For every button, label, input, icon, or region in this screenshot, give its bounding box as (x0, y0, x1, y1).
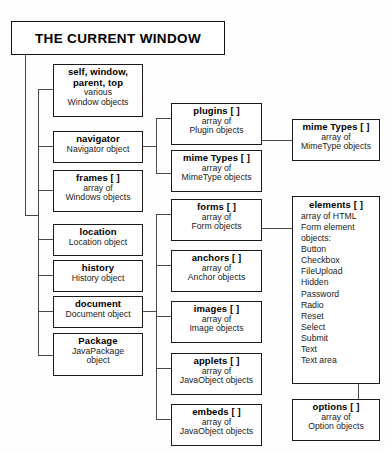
connector-plugins-to-mimetypes (262, 140, 292, 141)
element-item-button: Button (301, 244, 379, 255)
node-sub2: Anchor objects (172, 273, 261, 283)
node-sub2: Option objects (293, 422, 379, 432)
javascript-object-hierarchy-diagram: THE CURRENT WINDOW self, window, parent,… (0, 0, 390, 453)
elements-sub3: objects: (301, 233, 379, 244)
node-document[interactable]: document Document object (53, 296, 143, 328)
connector-title-drop (25, 55, 26, 216)
elements-detail-list: array of HTML Form element objects: Butt… (293, 211, 379, 367)
node-sub2: MimeType objects (172, 173, 261, 183)
connector-stub-forms (156, 214, 172, 215)
elements-sub1: array of HTML (301, 211, 379, 222)
node-navigator[interactable]: navigator Navigator object (53, 131, 143, 163)
node-mime-types-middle[interactable]: mime Types [ ] array of MimeType objects (171, 150, 262, 192)
node-sub2: Plugin objects (172, 126, 261, 136)
connector-stub-document (38, 311, 53, 312)
element-item-radio: Radio (301, 300, 379, 311)
element-item-submit: Submit (301, 333, 379, 344)
node-package[interactable]: Package JavaPackage object (53, 333, 143, 376)
element-item-fileupload: FileUpload (301, 266, 379, 277)
connector-stub-location (38, 239, 53, 240)
node-sub1: Document object (54, 310, 142, 320)
connector-stub-self (38, 89, 53, 90)
node-sub1: History object (54, 274, 142, 284)
connector-stub-anchors (156, 265, 172, 266)
node-embeds[interactable]: embeds [ ] array of JavaObject objects (171, 404, 262, 446)
connector-title-elbow (25, 215, 39, 216)
node-frames[interactable]: frames [ ] array of Windows objects (53, 170, 143, 212)
connector-navigator-out (143, 146, 157, 147)
diagram-title-text: THE CURRENT WINDOW (35, 31, 201, 46)
connector-stub-history (38, 275, 53, 276)
connector-stub-frames (38, 190, 53, 191)
diagram-title-box: THE CURRENT WINDOW (11, 21, 225, 55)
connector-left-spine (38, 89, 39, 355)
connector-stub-images (156, 316, 172, 317)
node-forms[interactable]: forms [ ] array of Form objects (171, 199, 262, 241)
element-item-hidden: Hidden (301, 277, 379, 288)
element-item-text-area: Text area (301, 355, 379, 366)
connector-stub-navigator (38, 146, 53, 147)
node-sub2: JavaObject objects (172, 376, 261, 386)
node-sub1: Location object (54, 238, 142, 248)
element-item-select: Select (301, 322, 379, 333)
node-options[interactable]: options [ ] array of Option objects (292, 399, 380, 441)
node-sub2: Image objects (172, 324, 261, 334)
element-item-checkbox: Checkbox (301, 255, 379, 266)
node-self-window-parent-top[interactable]: self, window, parent, top various Window… (53, 64, 143, 117)
node-plugins[interactable]: plugins [ ] array of Plugin objects (171, 103, 262, 145)
node-anchors[interactable]: anchors [ ] array of Anchor objects (171, 250, 262, 292)
connector-forms-to-elements (262, 228, 292, 229)
node-sub2: object (54, 356, 142, 366)
node-elements[interactable]: elements [ ] array of HTML Form element … (292, 196, 380, 384)
node-applets[interactable]: applets [ ] array of JavaObject objects (171, 353, 262, 395)
node-sub2: MimeType objects (293, 142, 379, 152)
connector-stub-applets (156, 368, 172, 369)
element-item-text: Text (301, 344, 379, 355)
element-item-password: Password (301, 289, 379, 300)
node-mime-types-right[interactable]: mime Types [ ] array of MimeType objects (292, 119, 380, 161)
connector-document-out (143, 311, 157, 312)
node-history[interactable]: history History object (53, 260, 143, 292)
node-title-line1: elements [ ] (293, 200, 379, 211)
node-images[interactable]: images [ ] array of Image objects (171, 301, 262, 343)
node-sub2: Form objects (172, 222, 261, 232)
node-sub2: Windows objects (54, 193, 142, 203)
connector-stub-mimetypes (156, 173, 172, 174)
node-sub2: JavaObject objects (172, 427, 261, 437)
connector-navigator-spine (156, 118, 157, 174)
elements-sub2: Form element (301, 222, 379, 233)
connector-stub-package (38, 355, 53, 356)
element-item-reset: Reset (301, 311, 379, 322)
connector-stub-plugins (156, 118, 172, 119)
connector-stub-embeds (156, 419, 172, 420)
node-sub2: Window objects (54, 98, 142, 108)
node-sub1: Navigator object (54, 145, 142, 155)
node-location[interactable]: location Location object (53, 224, 143, 256)
